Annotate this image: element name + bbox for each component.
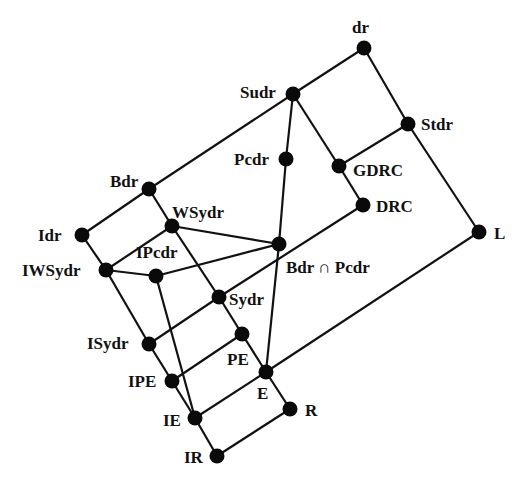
edge-wsydr-bdrpcdr	[172, 226, 279, 244]
node-sydr	[212, 290, 227, 305]
edge-sydr-isydr	[149, 297, 219, 344]
edge-bdr-idr	[82, 189, 149, 235]
edge-l-e	[266, 232, 479, 372]
node-ie	[188, 411, 203, 426]
node-label-r: R	[305, 401, 318, 420]
edge-dr-stdr	[364, 48, 408, 124]
edge-sudr-gdrc	[293, 94, 339, 166]
node-r	[283, 402, 298, 417]
node-label-pe: PE	[227, 350, 249, 369]
edge-dr-sudr	[293, 48, 364, 94]
node-label-isydr: ISydr	[87, 334, 129, 353]
node-isydr	[142, 337, 157, 352]
node-label-sydr: Sydr	[229, 290, 264, 309]
node-bdr	[142, 182, 157, 197]
node-label-wsydr: WSydr	[172, 203, 224, 222]
node-drc	[356, 198, 371, 213]
node-label-ie: IE	[163, 411, 181, 430]
node-e	[259, 365, 274, 380]
node-label-bdr: Bdr	[110, 172, 139, 191]
node-label-stdr: Stdr	[421, 115, 454, 134]
node-label-bdrpcdr: Bdr ∩ Pcdr	[286, 258, 370, 277]
node-label-ipcdr: IPcdr	[136, 243, 178, 262]
node-label-iwsydr: IWSydr	[22, 261, 81, 280]
edge-iwsydr-isydr	[106, 270, 149, 344]
node-pe	[235, 327, 250, 342]
edge-sudr-pcdr	[286, 94, 293, 159]
node-label-idr: Idr	[38, 226, 62, 245]
edge-iwsydr-ipcdr	[106, 270, 156, 276]
node-label-gdrc: GDRC	[353, 161, 403, 180]
node-gdrc	[332, 159, 347, 174]
node-label-l: L	[494, 224, 505, 243]
node-label-drc: DRC	[376, 197, 413, 216]
edge-stdr-l	[408, 124, 479, 232]
node-l	[472, 225, 487, 240]
node-ir	[210, 449, 225, 464]
node-ipe	[165, 374, 180, 389]
node-label-ipe: IPE	[128, 372, 156, 391]
node-dr	[357, 41, 372, 56]
node-label-pcdr: Pcdr	[234, 150, 269, 169]
edge-e-ie	[195, 372, 266, 418]
edge-stdr-gdrc	[339, 124, 408, 166]
edge-ipcdr-ie	[156, 276, 195, 418]
node-label-dr: dr	[352, 18, 369, 37]
node-ipcdr	[149, 269, 164, 284]
node-iwsydr	[99, 263, 114, 278]
node-bdrpcdr	[272, 237, 287, 252]
lattice-diagram: drSudrStdrPcdrGDRCBdrDRCWSydrIdrLBdr ∩ P…	[0, 0, 524, 487]
edge-drc-sydr	[219, 205, 363, 297]
node-label-sudr: Sudr	[240, 83, 276, 102]
edge-r-ir	[217, 409, 290, 456]
node-label-e: E	[257, 384, 268, 403]
node-pcdr	[279, 152, 294, 167]
node-sudr	[286, 87, 301, 102]
node-idr	[75, 228, 90, 243]
node-stdr	[401, 117, 416, 132]
edge-pcdr-bdrpcdr	[279, 159, 286, 244]
edge-sudr-bdr	[149, 94, 293, 189]
node-label-ir: IR	[184, 448, 204, 467]
